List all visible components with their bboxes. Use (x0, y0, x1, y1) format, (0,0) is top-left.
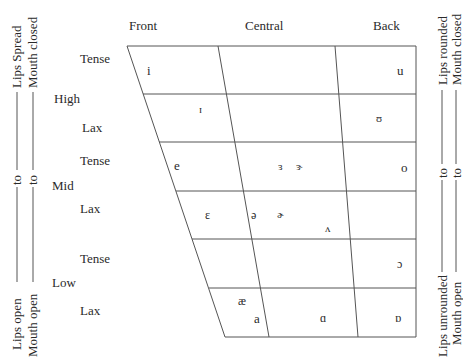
row-label-low: Low (52, 276, 76, 289)
right-lips-top: Lips rounded (436, 16, 449, 85)
vowel-schwa: ə (251, 209, 256, 221)
vowel-ae: æ (238, 295, 246, 307)
vowel-u: u (397, 64, 404, 77)
row-label-mid-tense: Tense (80, 154, 110, 167)
vowel-i: i (147, 64, 151, 77)
right-mouth-bottom: Mouth open (450, 282, 463, 345)
row-label-high: High (54, 92, 80, 105)
vowel-o: o (401, 161, 408, 174)
row-label-mid: Mid (52, 179, 74, 192)
vowel-open-mid-central: ɜ (278, 161, 283, 172)
column-header-central: Central (245, 19, 283, 32)
left-mouth-bottom: Mouth open (26, 294, 39, 357)
right-lips-bottom: Lips unrounded (436, 275, 449, 357)
row-label-high-tense: Tense (80, 52, 110, 65)
vowel-near-close-back: ʊ (376, 113, 382, 124)
vowel-r-colored-schwa: ɚ (277, 209, 284, 220)
row-label-high-lax: Lax (82, 121, 102, 134)
row-label-low-tense: Tense (80, 252, 110, 265)
left-mouth-mid: to (26, 175, 39, 185)
vowel-turned-alpha: ɒ (395, 312, 401, 324)
right-mouth-mid: to (450, 168, 463, 178)
column-header-front: Front (129, 19, 157, 32)
vowel-epsilon: ɛ (205, 209, 210, 221)
left-lips-bottom: Lips open (10, 298, 23, 350)
right-mouth-top: Mouth closed (450, 14, 463, 85)
left-lips-top: Lips Spread (10, 26, 23, 88)
row-label-mid-lax: Lax (80, 202, 100, 215)
vowel-open-o: ɔ (397, 258, 402, 270)
left-lips-mid: to (10, 175, 23, 185)
vowel-r-colored-open-mid: ɝ (296, 161, 302, 172)
vowel-near-close-front: ɪ (199, 104, 202, 115)
vowel-a: a (254, 312, 260, 325)
column-header-back: Back (373, 19, 400, 32)
left-mouth-top: Mouth closed (26, 17, 39, 88)
right-lips-mid: to (436, 168, 449, 178)
row-label-low-lax: Lax (80, 304, 100, 317)
vowel-alpha: ɑ (320, 312, 326, 324)
vowel-e: e (174, 159, 180, 172)
vowel-wedge: ʌ (325, 223, 331, 234)
